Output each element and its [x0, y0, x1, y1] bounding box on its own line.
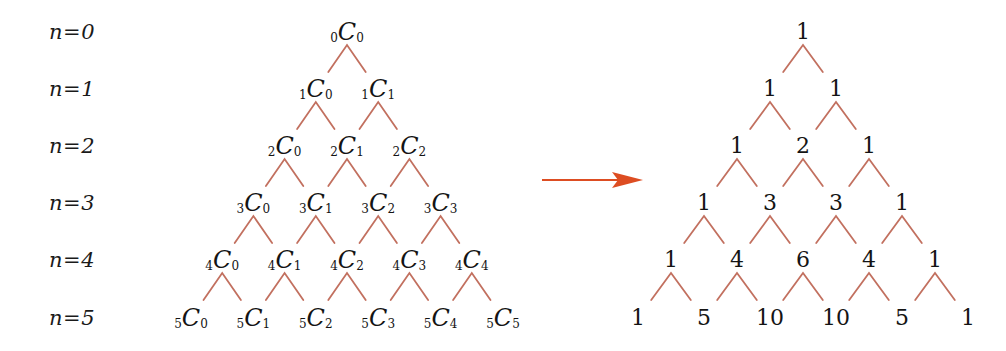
comb-r-subscript: 2: [419, 145, 427, 159]
comb-c-symbol: C: [307, 189, 325, 217]
comb-r-subscript: 2: [387, 202, 395, 216]
connector-v: [360, 216, 397, 243]
comb-node-4-3: 4C3: [393, 248, 427, 272]
connector-v: [297, 216, 334, 243]
comb-r-subscript: 4: [450, 317, 458, 331]
comb-n-subscript: 5: [174, 317, 182, 331]
comb-n-subscript: 3: [237, 202, 245, 216]
comb-r-subscript: 1: [294, 259, 302, 273]
pascal-node-r4-c1: 4: [730, 249, 744, 271]
comb-r-subscript: 0: [200, 317, 208, 331]
connector-v: [297, 102, 334, 129]
pascal-node-r4-c2: 6: [796, 249, 810, 271]
comb-n-subscript: 5: [299, 317, 307, 331]
connector-v: [750, 216, 790, 243]
comb-c-symbol: C: [182, 304, 200, 332]
comb-c-symbol: C: [244, 189, 262, 217]
comb-node-2-1: 2C1: [330, 134, 364, 158]
pascal-node-r5-c0: 1: [631, 307, 645, 329]
connector-lines-layer: [0, 0, 1006, 351]
pascal-node-r3-c3: 1: [895, 192, 909, 214]
comb-r-subscript: 1: [263, 317, 271, 331]
rightward-arrow: [540, 168, 644, 192]
connector-v: [849, 273, 889, 300]
comb-node-5-4: 5C4: [424, 306, 458, 330]
comb-c-symbol: C: [494, 304, 512, 332]
comb-n-subscript: 2: [268, 145, 276, 159]
connector-v: [849, 159, 889, 186]
comb-n-subscript: 5: [237, 317, 245, 331]
comb-n-subscript: 2: [330, 145, 338, 159]
comb-c-symbol: C: [307, 75, 325, 103]
comb-c-symbol: C: [338, 246, 356, 274]
comb-r-subscript: 2: [325, 317, 333, 331]
comb-r-subscript: 0: [231, 259, 239, 273]
comb-n-subscript: 3: [361, 202, 369, 216]
connector-v: [684, 216, 724, 243]
row-label-n1: n=1: [49, 77, 95, 101]
comb-node-5-2: 5C2: [299, 306, 333, 330]
pascal-node-r4-c3: 4: [862, 249, 876, 271]
connector-v: [783, 45, 823, 72]
comb-n-subscript: 4: [393, 259, 401, 273]
pascal-node-r2-c0: 1: [730, 135, 744, 157]
comb-n-subscript: 5: [361, 317, 369, 331]
comb-r-subscript: 1: [387, 88, 395, 102]
pascal-node-r0-c0: 1: [796, 21, 810, 43]
connector-v: [422, 216, 459, 243]
connector-v: [750, 102, 790, 129]
comb-node-4-0: 4C0: [205, 248, 239, 272]
pascal-node-r3-c0: 1: [697, 192, 711, 214]
comb-node-3-0: 3C0: [237, 191, 271, 215]
connector-v: [717, 159, 757, 186]
row-label-n4: n=4: [49, 248, 95, 272]
connector-v: [235, 216, 272, 243]
connector-v: [266, 273, 303, 300]
connector-v: [783, 159, 823, 186]
comb-node-5-1: 5C1: [237, 306, 271, 330]
connector-v: [717, 273, 757, 300]
pascal-node-r4-c4: 1: [928, 249, 942, 271]
comb-node-5-3: 5C3: [361, 306, 395, 330]
comb-node-0-0: 0C0: [330, 20, 364, 44]
connector-v: [266, 159, 303, 186]
comb-node-1-0: 1C0: [299, 77, 333, 101]
comb-r-subscript: 1: [325, 202, 333, 216]
pascal-node-r5-c1: 5: [697, 307, 711, 329]
pascal-node-r5-c5: 1: [961, 307, 975, 329]
comb-r-subscript: 3: [387, 317, 395, 331]
comb-node-3-1: 3C1: [299, 191, 333, 215]
comb-c-symbol: C: [400, 246, 418, 274]
comb-c-symbol: C: [275, 246, 293, 274]
connector-v: [328, 45, 365, 72]
connector-v: [651, 273, 691, 300]
comb-c-symbol: C: [369, 75, 387, 103]
comb-n-subscript: 1: [299, 88, 307, 102]
pascal-node-r5-c4: 5: [895, 307, 909, 329]
comb-c-symbol: C: [431, 304, 449, 332]
comb-c-symbol: C: [307, 304, 325, 332]
comb-n-subscript: 4: [455, 259, 463, 273]
pascal-node-r2-c1: 2: [796, 135, 810, 157]
pascal-node-r1-c0: 1: [763, 78, 777, 100]
comb-n-subscript: 4: [330, 259, 338, 273]
connector-v: [915, 273, 955, 300]
connector-v: [816, 216, 856, 243]
comb-c-symbol: C: [463, 246, 481, 274]
pascal-node-r3-c2: 3: [829, 192, 843, 214]
comb-n-subscript: 0: [330, 31, 338, 45]
comb-node-4-2: 4C2: [330, 248, 364, 272]
comb-n-subscript: 2: [393, 145, 401, 159]
comb-r-subscript: 0: [356, 31, 364, 45]
connector-v: [204, 273, 241, 300]
pascal-node-r2-c2: 1: [862, 135, 876, 157]
comb-c-symbol: C: [244, 304, 262, 332]
comb-c-symbol: C: [431, 189, 449, 217]
comb-n-subscript: 1: [361, 88, 369, 102]
comb-n-subscript: 5: [486, 317, 494, 331]
comb-node-5-5: 5C5: [486, 306, 520, 330]
pascal-node-r4-c0: 1: [664, 249, 678, 271]
comb-node-3-3: 3C3: [424, 191, 458, 215]
row-label-n5: n=5: [49, 306, 95, 330]
comb-node-3-2: 3C2: [361, 191, 395, 215]
